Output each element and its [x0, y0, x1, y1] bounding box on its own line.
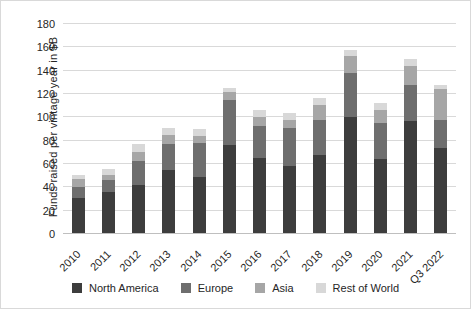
bar-segment-2020-rest-of-world	[374, 103, 387, 110]
bar-segment-2021-rest-of-world	[404, 59, 417, 66]
y-tick-label-140: 140	[27, 66, 55, 77]
bar-segment-2017-rest-of-world	[283, 113, 296, 120]
bar-slot-2013	[154, 24, 184, 234]
bar-slot-2021	[396, 24, 426, 234]
bar-segment-2012-europe	[132, 161, 145, 186]
y-tick-label-60: 60	[27, 159, 55, 170]
stacked-bar-2018	[313, 98, 326, 234]
bar-segment-Q3 2022-europe	[434, 120, 447, 148]
bar-slot-2012	[123, 24, 153, 234]
legend-item-north-america: North America	[72, 282, 159, 294]
stacked-bar-2019	[344, 50, 357, 234]
bar-segment-2017-asia	[283, 120, 296, 128]
bar-segment-2020-asia	[374, 110, 387, 123]
bar-segment-2019-north-america	[344, 117, 357, 234]
plot-area	[63, 24, 456, 234]
bar-segment-2013-europe	[162, 144, 175, 170]
bar-segment-2020-north-america	[374, 159, 387, 234]
bar-segment-2021-north-america	[404, 121, 417, 234]
x-axis-labels: 2010201120122013201420152016201720182019…	[63, 237, 456, 271]
legend-item-europe: Europe	[181, 282, 233, 294]
bars-layer	[63, 24, 456, 234]
bar-segment-2014-north-america	[193, 177, 206, 234]
bar-segment-2015-north-america	[223, 145, 236, 234]
bar-segment-2020-europe	[374, 123, 387, 159]
y-tick-label-120: 120	[27, 89, 55, 100]
stacked-bar-2013	[162, 128, 175, 234]
bar-segment-2012-north-america	[132, 185, 145, 234]
bar-segment-2012-rest-of-world	[132, 144, 145, 152]
bar-slot-2018	[305, 24, 335, 234]
stacked-bar-2012	[132, 144, 145, 234]
y-tick-label-160: 160	[27, 42, 55, 53]
bar-slot-2016	[244, 24, 274, 234]
bar-segment-2015-asia	[223, 92, 236, 100]
bar-segment-2021-asia	[404, 66, 417, 85]
stacked-bar-2017	[283, 113, 296, 234]
bar-segment-2015-europe	[223, 100, 236, 146]
bar-slot-2015	[214, 24, 244, 234]
bar-segment-2018-north-america	[313, 155, 326, 234]
y-tick-label-80: 80	[27, 136, 55, 147]
bar-segment-2021-europe	[404, 85, 417, 121]
legend-swatch-icon	[181, 283, 191, 293]
stacked-bar-2020	[374, 103, 387, 234]
bar-segment-Q3 2022-north-america	[434, 148, 447, 234]
bar-slot-2019	[335, 24, 365, 234]
stacked-bar-2011	[102, 169, 115, 234]
bar-slot-2017	[275, 24, 305, 234]
bar-segment-2016-asia	[253, 117, 266, 125]
bar-segment-2010-asia	[72, 179, 85, 187]
bar-segment-2011-north-america	[102, 192, 115, 234]
bar-segment-2013-asia	[162, 135, 175, 144]
bar-segment-2014-europe	[193, 143, 206, 177]
y-tick-label-40: 40	[27, 182, 55, 193]
bar-segment-2019-asia	[344, 56, 357, 74]
bar-segment-2016-north-america	[253, 158, 266, 234]
y-tick-label-180: 180	[27, 19, 55, 30]
stacked-bar-2021	[404, 59, 417, 234]
bar-slot-2011	[93, 24, 123, 234]
legend-label: Asia	[272, 282, 293, 294]
stacked-bar-2015	[223, 88, 236, 234]
bar-segment-2013-north-america	[162, 170, 175, 234]
bar-slot-2014	[184, 24, 214, 234]
y-tick-label-100: 100	[27, 112, 55, 123]
bar-segment-2016-rest-of-world	[253, 110, 266, 117]
legend: North AmericaEuropeAsiaRest of World	[1, 282, 470, 294]
x-axis-line	[63, 233, 456, 234]
legend-label: North America	[89, 282, 159, 294]
bar-segment-2018-rest-of-world	[313, 98, 326, 105]
x-slot-Q3 2022: Q3 2022	[426, 237, 456, 271]
stacked-bar-2014	[193, 129, 206, 234]
bar-segment-2013-rest-of-world	[162, 128, 175, 135]
bar-segment-2019-europe	[344, 73, 357, 117]
legend-swatch-icon	[72, 283, 82, 293]
y-tick-label-0: 0	[27, 229, 55, 240]
bar-segment-2010-europe	[72, 187, 85, 198]
legend-item-rest-of-world: Rest of World	[316, 282, 399, 294]
x-axis-label-2010: 2010	[57, 248, 83, 274]
bar-segment-2018-asia	[313, 105, 326, 120]
bar-segment-2017-north-america	[283, 166, 296, 234]
bar-segment-Q3 2022-asia	[434, 89, 447, 119]
stacked-bar-chart-figure: Funds raised per vintage year in $B 0204…	[0, 0, 471, 309]
legend-swatch-icon	[316, 283, 326, 293]
bar-segment-2017-europe	[283, 128, 296, 167]
bar-segment-2014-asia	[193, 136, 206, 143]
stacked-bar-2016	[253, 110, 266, 234]
bar-segment-2011-europe	[102, 180, 115, 192]
bar-slot-2020	[365, 24, 395, 234]
legend-item-asia: Asia	[255, 282, 293, 294]
bar-slot-2010	[63, 24, 93, 234]
bar-segment-2016-europe	[253, 126, 266, 159]
bar-segment-2018-europe	[313, 120, 326, 155]
legend-swatch-icon	[255, 283, 265, 293]
bar-segment-2012-asia	[132, 152, 145, 160]
bar-slot-Q3 2022	[426, 24, 456, 234]
stacked-bar-Q3 2022	[434, 85, 447, 234]
bar-segment-2010-north-america	[72, 198, 85, 234]
stacked-bar-2010	[72, 175, 85, 234]
legend-label: Europe	[198, 282, 233, 294]
legend-label: Rest of World	[333, 282, 399, 294]
